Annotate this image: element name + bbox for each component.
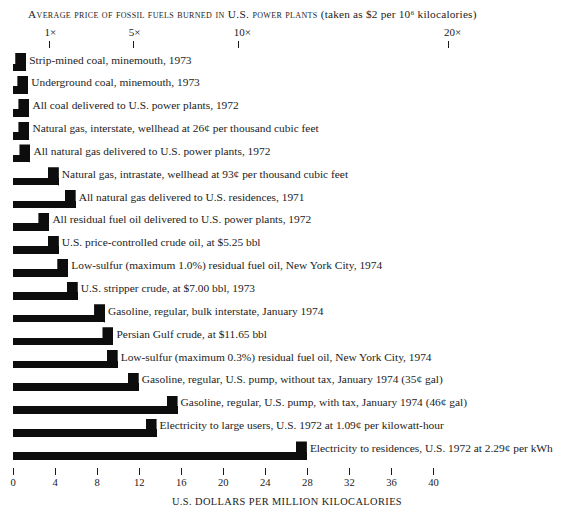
chart-bar-row: Low-sulfur (maximum 1.0%) residual fuel …	[0, 258, 574, 283]
x-axis-tick	[55, 468, 56, 475]
bar-label: Low-sulfur (maximum 1.0%) residual fuel …	[71, 259, 382, 271]
chart-bar-row: Natural gas, interstate, wellhead at 26¢…	[0, 121, 574, 146]
bar	[13, 429, 157, 437]
chart-bar-row: Electricity to residences, U.S. 1972 at …	[0, 440, 574, 465]
multiplier-tick-label: 20×	[444, 26, 461, 38]
bar-label: All coal delivered to U.S. power plants,…	[32, 99, 238, 111]
bar-label: Gasoline, regular, U.S. pump, without ta…	[142, 373, 443, 385]
bar	[13, 452, 307, 460]
chart-bar-row: All residual fuel oil delivered to U.S. …	[0, 212, 574, 237]
x-axis-tick	[349, 468, 350, 475]
chart-bar-row: Persian Gulf crude, at $11.65 bbl	[0, 326, 574, 351]
bar-label: Electricity to residences, U.S. 1972 at …	[310, 442, 553, 454]
bar-label: Gasoline, regular, U.S. pump, with tax, …	[181, 396, 467, 408]
x-axis-tick-label: 0	[10, 477, 15, 488]
multiplier-tick	[448, 41, 449, 48]
bar-label: Electricity to large users, U.S. 1972 at…	[160, 419, 444, 431]
x-axis-title: U.S. DOLLARS PER MILLION KILOCALORIES	[0, 496, 574, 507]
chart-bar-row: All natural gas delivered to U.S. reside…	[0, 189, 574, 214]
multiplier-tick-label: 10×	[234, 26, 251, 38]
bar-label: All natural gas delivered to U.S. reside…	[79, 191, 305, 203]
bar	[13, 338, 114, 346]
chart-bar-row: All natural gas delivered to U.S. power …	[0, 143, 574, 168]
multiplier-tick-label: 5×	[129, 26, 141, 38]
chart-bar-row: Gasoline, regular, U.S. pump, without ta…	[0, 372, 574, 397]
chart-bar-row: U.S. price-controlled crude oil, at $5.2…	[0, 235, 574, 260]
bar-label: Low-sulfur (maximum 0.3%) residual fuel …	[121, 351, 432, 363]
x-axis-tick	[97, 468, 98, 475]
multiplier-tick-label: 1×	[45, 26, 57, 38]
x-axis-tick-label: 20	[218, 477, 229, 488]
chart-bar-row: All coal delivered to U.S. power plants,…	[0, 98, 574, 123]
x-axis-tick-label: 24	[260, 477, 271, 488]
x-axis-tick	[223, 468, 224, 475]
x-axis-tick-label: 12	[134, 477, 145, 488]
multiplier-axis: 1×5×10×20×	[0, 26, 574, 50]
x-axis-tick-label: 40	[428, 477, 439, 488]
multiplier-tick	[49, 41, 50, 48]
x-axis-tick	[139, 468, 140, 475]
x-axis-tick-label: 28	[302, 477, 313, 488]
chart-bar-row: Strip-mined coal, minemouth, 1973	[0, 52, 574, 77]
chart-bar-row: Gasoline, regular, bulk interstate, Janu…	[0, 303, 574, 328]
chart-bar-row: U.S. stripper crude, at $7.00 bbl, 1973	[0, 281, 574, 306]
x-axis-tick	[307, 468, 308, 475]
multiplier-tick	[133, 41, 134, 48]
bar-label: Gasoline, regular, bulk interstate, Janu…	[108, 305, 323, 317]
bar	[13, 406, 178, 414]
chart-bar-row: Gasoline, regular, U.S. pump, with tax, …	[0, 395, 574, 420]
chart-title-main: Average price of fossil fuels burned in …	[28, 8, 318, 20]
bar-label: All residual fuel oil delivered to U.S. …	[52, 213, 311, 225]
bar-label: U.S. price-controlled crude oil, at $5.2…	[62, 236, 261, 248]
x-axis-tick-label: 16	[176, 477, 187, 488]
multiplier-tick	[238, 41, 239, 48]
x-axis-tick	[433, 468, 434, 475]
chart-bar-row: Natural gas, intrastate, wellhead at 93¢…	[0, 166, 574, 191]
chart-bar-row: Electricity to large users, U.S. 1972 at…	[0, 418, 574, 443]
bar-label: Persian Gulf crude, at $11.65 bbl	[116, 328, 266, 340]
x-axis-tick-label: 32	[344, 477, 355, 488]
bar-label: Underground coal, minemouth, 1973	[31, 76, 199, 88]
chart-bar-row: Underground coal, minemouth, 1973	[0, 75, 574, 100]
bar-label: U.S. stripper crude, at $7.00 bbl, 1973	[81, 282, 255, 294]
chart-title: Average price of fossil fuels burned in …	[28, 8, 568, 20]
dollar-axis: 0481216202428323640	[0, 468, 574, 494]
plot-area: Strip-mined coal, minemouth, 1973Undergr…	[0, 52, 574, 464]
x-axis-tick-label: 8	[95, 477, 100, 488]
bar-label: Strip-mined coal, minemouth, 1973	[29, 54, 191, 66]
bar-label: Natural gas, intrastate, wellhead at 93¢…	[62, 168, 348, 180]
bar	[13, 315, 105, 323]
chart-title-note: (taken as $2 per 10⁶ kilocalories)	[321, 8, 477, 20]
x-axis-tick-label: 36	[386, 477, 397, 488]
bar-label: Natural gas, interstate, wellhead at 26¢…	[32, 122, 318, 134]
x-axis-tick-label: 4	[52, 477, 57, 488]
bar	[13, 361, 118, 369]
bar-label: All natural gas delivered to U.S. power …	[33, 145, 270, 157]
chart-bar-row: Low-sulfur (maximum 0.3%) residual fuel …	[0, 349, 574, 374]
x-axis-tick	[391, 468, 392, 475]
x-axis-tick	[265, 468, 266, 475]
bar	[13, 383, 139, 391]
x-axis-tick	[13, 468, 14, 475]
bar	[13, 292, 78, 300]
fossil-fuel-price-chart: Average price of fossil fuels burned in …	[0, 0, 574, 516]
x-axis-tick	[181, 468, 182, 475]
